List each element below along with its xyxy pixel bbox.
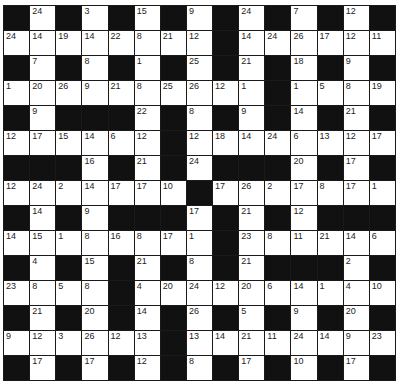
grid-cell[interactable]: 14: [82, 131, 107, 155]
grid-cell[interactable]: 12: [213, 81, 238, 105]
grid-cell[interactable]: 9: [30, 106, 55, 130]
grid-cell[interactable]: 13: [318, 131, 343, 155]
grid-cell[interactable]: 17: [30, 131, 55, 155]
grid-cell[interactable]: 1: [370, 181, 395, 205]
grid-cell[interactable]: 26: [239, 181, 264, 205]
grid-cell[interactable]: 8: [135, 81, 160, 105]
grid-cell[interactable]: 24: [30, 6, 55, 30]
grid-cell[interactable]: 8: [344, 81, 369, 105]
grid-cell[interactable]: 14: [291, 106, 316, 130]
grid-cell[interactable]: 6: [265, 281, 290, 305]
grid-cell[interactable]: 1: [4, 81, 29, 105]
grid-cell[interactable]: 14: [82, 181, 107, 205]
grid-cell[interactable]: 26: [82, 331, 107, 355]
grid-cell[interactable]: 8: [82, 56, 107, 80]
grid-cell[interactable]: 26: [291, 31, 316, 55]
grid-cell[interactable]: 4: [30, 256, 55, 280]
grid-cell[interactable]: 4: [135, 281, 160, 305]
grid-cell[interactable]: 2: [56, 181, 81, 205]
grid-cell[interactable]: 21: [344, 106, 369, 130]
grid-cell[interactable]: 26: [56, 81, 81, 105]
grid-cell[interactable]: 12: [213, 281, 238, 305]
grid-cell[interactable]: 17: [239, 356, 264, 380]
grid-cell[interactable]: 24: [4, 31, 29, 55]
grid-cell[interactable]: 1: [56, 231, 81, 255]
grid-cell[interactable]: 2: [344, 256, 369, 280]
grid-cell[interactable]: 21: [135, 256, 160, 280]
grid-cell[interactable]: 1: [135, 56, 160, 80]
grid-cell[interactable]: 7: [30, 56, 55, 80]
grid-cell[interactable]: 16: [109, 231, 134, 255]
grid-cell[interactable]: 17: [370, 131, 395, 155]
grid-cell[interactable]: 7: [291, 6, 316, 30]
grid-cell[interactable]: 8: [318, 181, 343, 205]
grid-cell[interactable]: 12: [4, 131, 29, 155]
grid-cell[interactable]: 17: [344, 156, 369, 180]
grid-cell[interactable]: 9: [4, 331, 29, 355]
grid-cell[interactable]: 23: [239, 231, 264, 255]
grid-cell[interactable]: 9: [239, 106, 264, 130]
grid-cell[interactable]: 15: [135, 6, 160, 30]
grid-cell[interactable]: 17: [291, 181, 316, 205]
grid-cell[interactable]: 12: [344, 31, 369, 55]
grid-cell[interactable]: 12: [4, 181, 29, 205]
grid-cell[interactable]: 17: [318, 31, 343, 55]
grid-cell[interactable]: 17: [82, 356, 107, 380]
grid-cell[interactable]: 21: [318, 231, 343, 255]
grid-cell[interactable]: 8: [265, 231, 290, 255]
grid-cell[interactable]: 25: [187, 56, 212, 80]
grid-cell[interactable]: 25: [161, 81, 186, 105]
grid-cell[interactable]: 21: [161, 31, 186, 55]
grid-cell[interactable]: 24: [265, 31, 290, 55]
grid-cell[interactable]: 8: [135, 31, 160, 55]
grid-cell[interactable]: 24: [239, 6, 264, 30]
grid-cell[interactable]: 12: [344, 6, 369, 30]
grid-cell[interactable]: 23: [370, 331, 395, 355]
grid-cell[interactable]: 5: [318, 81, 343, 105]
grid-cell[interactable]: 3: [56, 331, 81, 355]
grid-cell[interactable]: 21: [30, 306, 55, 330]
grid-cell[interactable]: 19: [56, 31, 81, 55]
grid-cell[interactable]: 11: [370, 31, 395, 55]
grid-cell[interactable]: 12: [109, 331, 134, 355]
grid-cell[interactable]: 14: [30, 206, 55, 230]
grid-cell[interactable]: 8: [187, 106, 212, 130]
grid-cell[interactable]: 26: [187, 306, 212, 330]
grid-cell[interactable]: 13: [135, 331, 160, 355]
grid-cell[interactable]: 19: [370, 81, 395, 105]
grid-cell[interactable]: 21: [109, 81, 134, 105]
grid-cell[interactable]: 5: [239, 306, 264, 330]
grid-cell[interactable]: 23: [4, 281, 29, 305]
grid-cell[interactable]: 1: [291, 81, 316, 105]
grid-cell[interactable]: 21: [239, 256, 264, 280]
grid-cell[interactable]: 15: [82, 256, 107, 280]
grid-cell[interactable]: 5: [56, 281, 81, 305]
grid-cell[interactable]: 9: [187, 6, 212, 30]
grid-cell[interactable]: 12: [187, 131, 212, 155]
grid-cell[interactable]: 24: [291, 331, 316, 355]
grid-cell[interactable]: 17: [161, 231, 186, 255]
grid-cell[interactable]: 22: [135, 106, 160, 130]
grid-cell[interactable]: 15: [30, 231, 55, 255]
grid-cell[interactable]: 14: [239, 131, 264, 155]
grid-cell[interactable]: 8: [187, 256, 212, 280]
grid-cell[interactable]: 10: [291, 356, 316, 380]
grid-cell[interactable]: 2: [265, 181, 290, 205]
grid-cell[interactable]: 20: [161, 281, 186, 305]
grid-cell[interactable]: 22: [109, 31, 134, 55]
grid-cell[interactable]: 21: [239, 206, 264, 230]
grid-cell[interactable]: 17: [109, 181, 134, 205]
grid-cell[interactable]: 9: [344, 56, 369, 80]
grid-cell[interactable]: 8: [82, 231, 107, 255]
grid-cell[interactable]: 14: [213, 331, 238, 355]
grid-cell[interactable]: 12: [135, 356, 160, 380]
grid-cell[interactable]: 16: [82, 156, 107, 180]
grid-cell[interactable]: 20: [239, 281, 264, 305]
grid-cell[interactable]: 9: [82, 81, 107, 105]
grid-cell[interactable]: 1: [187, 231, 212, 255]
grid-cell[interactable]: 8: [135, 231, 160, 255]
grid-cell[interactable]: 20: [344, 306, 369, 330]
grid-cell[interactable]: 20: [30, 81, 55, 105]
grid-cell[interactable]: 1: [239, 81, 264, 105]
grid-cell[interactable]: 14: [4, 231, 29, 255]
